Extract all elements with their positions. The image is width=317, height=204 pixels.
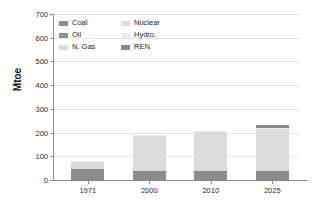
legend-swatch-icon [121,21,130,26]
bar-segment-nuclear[interactable] [71,162,104,169]
y-tick-label: 700 [35,10,48,19]
y-tick-mark [50,38,53,39]
legend-label: Coal [72,19,87,27]
legend-item-hydro[interactable]: Hydro. [121,29,184,41]
x-tick-label: 2000 [141,186,158,195]
y-tick-label: 400 [35,81,48,90]
x-tick-mark [211,181,212,184]
legend-label: REN [134,43,150,51]
gridline [54,109,299,110]
gridline [54,85,299,86]
legend-swatch-icon [59,21,68,26]
bar-segment-coal[interactable] [256,171,289,180]
x-tick-label: 2010 [202,186,219,195]
y-tick-mark [50,156,53,157]
legend-swatch-icon [59,45,68,50]
legend-item-oil[interactable]: Oil [59,29,121,41]
legend-label: Oil [72,31,81,39]
legend-label: Nuclear [134,19,160,27]
gridline [54,14,299,15]
bar-segment-hydro[interactable] [133,135,166,136]
y-tick-label: 300 [35,104,48,113]
x-tick-label: 1971 [79,186,96,195]
x-tick-mark [149,181,150,184]
bar-segment-ren[interactable] [256,125,289,128]
bar-segment-nuclear[interactable] [194,132,227,171]
legend-item-ren[interactable]: REN [121,41,184,53]
bar-2025[interactable] [256,125,289,180]
y-axis-title: Mtoe [12,50,23,110]
legend-swatch-icon [121,33,130,38]
x-axis-line [53,180,308,181]
x-tick-mark [272,181,273,184]
legend-label: N. Gas [72,43,95,51]
y-tick-mark [50,14,53,15]
bar-1971[interactable] [71,161,104,180]
x-tick-label: 2025 [264,186,281,195]
y-tick-label: 500 [35,57,48,66]
legend-item-nuclear[interactable]: Nuclear [121,17,184,29]
bar-segment-nuclear[interactable] [133,136,166,171]
gridline [54,61,299,62]
bar-segment-nuclear[interactable] [256,129,289,171]
legend-item-coal[interactable]: Coal [59,17,121,29]
y-tick-label: 600 [35,33,48,42]
legend-swatch-icon [121,45,130,50]
y-tick-mark [50,180,53,181]
y-tick-mark [50,109,53,110]
chart-legend: CoalNuclearOilHydro.N. GasREN [59,17,184,53]
y-tick-label: 0 [44,176,48,185]
y-tick-label: 100 [35,152,48,161]
y-tick-mark [50,61,53,62]
legend-item-ngas[interactable]: N. Gas [59,41,121,53]
bar-2000[interactable] [133,135,166,180]
legend-swatch-icon [59,33,68,38]
x-tick-mark [88,181,89,184]
stacked-bar-chart: Mtoe 0100200300400500600700 197120002010… [0,0,317,204]
y-tick-mark [50,85,53,86]
bar-segment-coal[interactable] [71,169,104,180]
bar-segment-coal[interactable] [194,171,227,180]
bar-2010[interactable] [194,131,227,180]
legend-label: Hydro. [134,31,156,39]
y-tick-mark [50,133,53,134]
bar-segment-coal[interactable] [133,171,166,180]
y-tick-label: 200 [35,128,48,137]
